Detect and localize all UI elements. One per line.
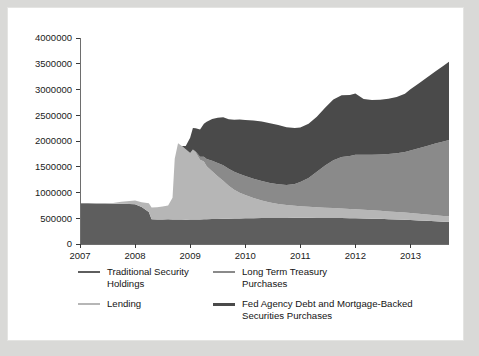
stacked-area-chart: 0500000100000015000002000000250000030000…	[8, 8, 463, 268]
x-axis-tick-label: 2012	[345, 250, 366, 261]
y-axis-tick-label: 3000000	[35, 84, 72, 95]
x-axis-tick-label: 2011	[290, 250, 310, 261]
y-axis-tick-label: 3500000	[35, 58, 72, 69]
legend-item-long-term-treasury-purchases[interactable]: Long Term Treasury Purchases	[213, 266, 463, 289]
chart-legend: Traditional Security Holdings Lending Lo…	[8, 266, 463, 340]
legend-item-traditional-security-holdings[interactable]: Traditional Security Holdings	[78, 266, 218, 289]
legend-item-lending[interactable]: Lending	[78, 298, 218, 310]
legend-column-right: Long Term Treasury Purchases Fed Agency …	[213, 266, 463, 330]
y-axis-tick-label: 0	[67, 238, 72, 249]
chart-plot-area: 0500000100000015000002000000250000030000…	[8, 8, 463, 268]
x-axis-tick-label: 2007	[69, 250, 90, 261]
legend-item-label: Long Term Treasury Purchases	[242, 266, 327, 289]
y-axis-tick-label: 2500000	[35, 110, 72, 121]
legend-item-fed-agency-debt-and-mbs-purchases[interactable]: Fed Agency Debt and Mortgage-Backed Secu…	[213, 298, 463, 321]
legend-item-label: Fed Agency Debt and Mortgage-Backed Secu…	[242, 298, 413, 321]
x-axis-tick-label: 2009	[180, 250, 201, 261]
legend-item-label: Lending	[107, 298, 141, 310]
x-axis-tick-label: 2010	[235, 250, 256, 261]
x-axis-tick-label: 2008	[125, 250, 146, 261]
x-axis-tick-label: 2013	[400, 250, 421, 261]
figure-card: 0500000100000015000002000000250000030000…	[8, 8, 463, 340]
y-axis-tick-label: 1000000	[35, 187, 72, 198]
y-axis-tick-label: 1500000	[35, 161, 72, 172]
y-axis-tick-label: 500000	[40, 213, 72, 224]
legend-swatch-icon	[213, 303, 235, 306]
legend-swatch-icon	[78, 303, 100, 305]
y-axis-tick-label: 4000000	[35, 32, 72, 43]
legend-item-label: Traditional Security Holdings	[107, 266, 189, 289]
legend-column-left: Traditional Security Holdings Lending	[78, 266, 218, 319]
y-axis-tick-label: 2000000	[35, 135, 72, 146]
legend-swatch-icon	[78, 271, 100, 273]
legend-swatch-icon	[213, 271, 235, 273]
